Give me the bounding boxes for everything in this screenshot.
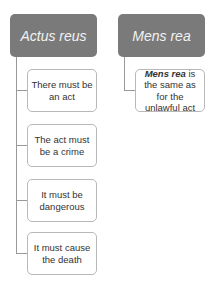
actus-reus-item: It must be dangerous <box>27 179 97 222</box>
mens-rea-term: Mens rea <box>145 68 186 79</box>
actus-reus-item: It must cause the death <box>27 232 97 275</box>
actus-reus-header: Actus reus <box>10 14 97 57</box>
mens-rea-item: Mens rea is the same as for the unlawful… <box>135 69 205 112</box>
connector-line <box>16 57 17 254</box>
connector-line <box>16 200 27 201</box>
connector-line <box>124 57 125 91</box>
connector-line <box>16 253 27 254</box>
connector-line <box>16 145 27 146</box>
connector-line <box>124 90 135 91</box>
mens-rea-header: Mens rea <box>118 14 205 57</box>
actus-reus-item: The act must be a crime <box>27 124 97 167</box>
connector-line <box>16 90 27 91</box>
actus-reus-item: There must be an act <box>27 69 97 112</box>
